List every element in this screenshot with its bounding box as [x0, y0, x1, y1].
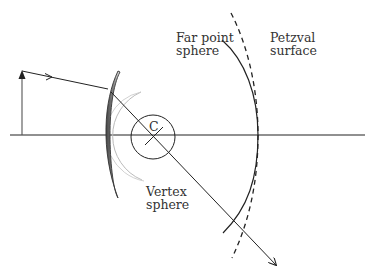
object-arrow: [19, 70, 26, 135]
far-point-sphere: [222, 40, 258, 233]
vertex-label-2: sphere: [146, 197, 189, 212]
incoming-ray: [22, 71, 108, 89]
far-point-label-2: sphere: [176, 43, 219, 58]
petzval-label-2: surface: [270, 43, 317, 58]
center-label: C: [149, 119, 159, 134]
optics-diagram: C Far point sphere Petzval surface Verte…: [0, 0, 374, 275]
